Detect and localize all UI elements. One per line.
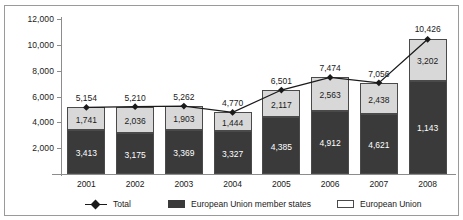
bar-group[interactable]: 3,4131,741 bbox=[67, 107, 105, 174]
y-tick-label-text: 6,000 bbox=[32, 92, 54, 102]
bar-segment-member-states[interactable]: 4,385 bbox=[262, 117, 300, 174]
bar-segment-member-states[interactable]: 4,621 bbox=[360, 114, 398, 174]
bar-value-label-member-states: 3,327 bbox=[215, 149, 251, 159]
x-axis-label: 2006 bbox=[321, 179, 340, 189]
chart-figure: € million 2,0004,0006,0008,00010,00012,0… bbox=[0, 0, 463, 220]
y-tick-label: 12,000 bbox=[0, 14, 54, 24]
legend-label-member-states: European Union member states bbox=[191, 199, 311, 209]
bar-value-label-member-states: 4,912 bbox=[312, 138, 348, 148]
bar-value-label-member-states: 3,175 bbox=[117, 150, 153, 160]
bar-segment-european-union[interactable]: 1,741 bbox=[67, 107, 105, 129]
bar-value-label-european-union: 2,438 bbox=[361, 95, 397, 105]
bar-value-label-member-states: 3,369 bbox=[166, 148, 202, 158]
x-axis-label: 2004 bbox=[223, 179, 242, 189]
bar-segment-european-union[interactable]: 3,202 bbox=[409, 39, 447, 80]
line-diamond-marker-icon bbox=[85, 200, 107, 209]
bar-group[interactable]: 3,3271,444 bbox=[214, 112, 252, 174]
bar-segment-member-states[interactable]: 3,413 bbox=[67, 130, 105, 174]
bar-value-label-member-states: 1,143 bbox=[410, 123, 446, 133]
x-axis-label: 2002 bbox=[126, 179, 145, 189]
bar-segment-european-union[interactable]: 2,036 bbox=[116, 107, 154, 133]
chart-legend: Total European Union member states Europ… bbox=[0, 197, 463, 213]
total-value-label: 5,154 bbox=[76, 93, 97, 103]
bar-group[interactable]: 3,3691,903 bbox=[165, 106, 203, 174]
total-value-label: 5,210 bbox=[124, 93, 145, 103]
y-tick-label: 8,000 bbox=[0, 66, 54, 76]
total-value-label: 7,056 bbox=[368, 69, 389, 79]
bar-value-label-european-union: 2,563 bbox=[312, 90, 348, 100]
bar-value-label-european-union: 2,036 bbox=[117, 116, 153, 126]
bar-value-label-member-states: 4,385 bbox=[263, 142, 299, 152]
x-axis-label: 2005 bbox=[272, 179, 291, 189]
bar-value-label-european-union: 2,117 bbox=[263, 100, 299, 110]
y-tick-label-text: 8,000 bbox=[32, 66, 54, 76]
x-axis-label: 2001 bbox=[77, 179, 96, 189]
total-value-label: 10,426 bbox=[415, 24, 441, 34]
y-tick-label: 2,000 bbox=[0, 143, 54, 153]
y-tick-label-text: 4,000 bbox=[32, 117, 54, 127]
bar-segment-european-union[interactable]: 2,117 bbox=[262, 90, 300, 117]
x-axis-label: 2008 bbox=[418, 179, 437, 189]
bar-value-label-european-union: 1,741 bbox=[68, 115, 104, 125]
bar-segment-european-union[interactable]: 2,438 bbox=[360, 83, 398, 114]
legend-item-total: Total bbox=[85, 197, 131, 211]
bar-value-label-european-union: 1,903 bbox=[166, 114, 202, 124]
total-value-label: 5,262 bbox=[173, 92, 194, 102]
total-value-label: 6,501 bbox=[271, 76, 292, 86]
y-tick-label: 6,000 bbox=[0, 92, 54, 102]
y-tick-label-text: 2,000 bbox=[32, 143, 54, 153]
total-value-label: 7,474 bbox=[319, 63, 340, 73]
bar-value-label-european-union: 1,444 bbox=[215, 118, 251, 128]
legend-label-total: Total bbox=[113, 199, 131, 209]
bar-group[interactable]: 4,3852,117 bbox=[262, 90, 300, 174]
legend-item-member-states: European Union member states bbox=[168, 197, 311, 211]
y-tick-label: 10,000 bbox=[0, 40, 54, 50]
y-tick-label: 4,000 bbox=[0, 117, 54, 127]
bar-value-label-member-states: 3,413 bbox=[68, 148, 104, 158]
bar-group[interactable]: 1,1433,202 bbox=[409, 39, 447, 174]
bar-group[interactable]: 4,6212,438 bbox=[360, 83, 398, 174]
bar-segment-european-union[interactable]: 1,444 bbox=[214, 112, 252, 131]
dark-swatch-icon bbox=[168, 200, 185, 208]
bar-group[interactable]: 4,9122,563 bbox=[311, 77, 349, 174]
total-value-label: 4,770 bbox=[222, 98, 243, 108]
bar-group[interactable]: 3,1752,036 bbox=[116, 107, 154, 174]
y-tick-label-text: 12,000 bbox=[27, 14, 54, 24]
y-tick-label-text: 10,000 bbox=[27, 40, 54, 50]
bar-value-label-member-states: 4,621 bbox=[361, 140, 397, 150]
bar-segment-member-states[interactable]: 3,327 bbox=[214, 131, 252, 174]
bar-segment-member-states[interactable]: 3,175 bbox=[116, 133, 154, 174]
light-swatch-icon bbox=[337, 200, 354, 208]
x-axis-label: 2007 bbox=[369, 179, 388, 189]
bar-segment-european-union[interactable]: 1,903 bbox=[165, 106, 203, 131]
bar-segment-member-states[interactable]: 3,369 bbox=[165, 130, 203, 174]
bar-segment-member-states[interactable]: 4,912 bbox=[311, 111, 349, 174]
x-axis-line bbox=[52, 174, 456, 175]
plot-area: 3,4131,7413,1752,0363,3691,9033,3271,444… bbox=[62, 19, 452, 174]
bar-segment-member-states[interactable]: 1,143 bbox=[409, 81, 447, 174]
legend-item-european-union: European Union bbox=[337, 197, 421, 211]
bar-segment-european-union[interactable]: 2,563 bbox=[311, 77, 349, 110]
x-axis-label: 2003 bbox=[174, 179, 193, 189]
bar-value-label-european-union: 3,202 bbox=[410, 56, 446, 66]
legend-label-european-union: European Union bbox=[360, 199, 421, 209]
